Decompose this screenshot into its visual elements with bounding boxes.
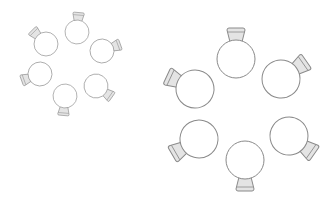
small-ring bbox=[18, 12, 125, 117]
large-ring bbox=[159, 28, 325, 191]
flask-icon bbox=[24, 22, 63, 61]
flask-icon bbox=[79, 69, 119, 107]
flask-icon bbox=[18, 59, 56, 92]
flask-icon bbox=[159, 59, 220, 115]
flask-rings-diagram bbox=[0, 0, 333, 203]
flask-icon bbox=[226, 141, 264, 191]
flask-icon bbox=[255, 46, 318, 106]
flask-icon bbox=[263, 110, 326, 170]
flask-icon bbox=[51, 83, 78, 116]
flask-icon bbox=[87, 33, 125, 66]
flask-icon bbox=[64, 12, 91, 45]
flask-icon bbox=[163, 113, 225, 171]
flask-icon bbox=[217, 28, 255, 78]
